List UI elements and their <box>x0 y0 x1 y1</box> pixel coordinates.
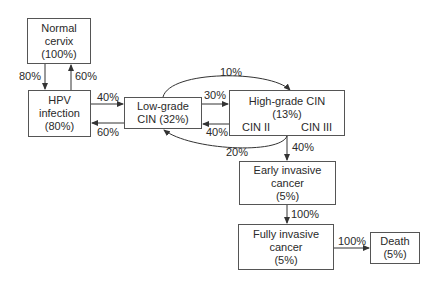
node-text: Death <box>380 235 409 248</box>
node-normal-cervix: Normal cervix (100%) <box>27 18 91 64</box>
edge-label-hpv-to-low: 40% <box>97 91 119 103</box>
edge-label-low-to-high: 30% <box>204 89 226 101</box>
node-text: CIN (32%) <box>137 113 188 126</box>
node-text: cancer <box>271 177 304 190</box>
node-text: (5%) <box>276 190 299 203</box>
label-cin3: CIN III <box>301 121 332 133</box>
node-text: HPV <box>48 94 71 107</box>
edge-label-normal-to-hpv: 80% <box>19 70 41 82</box>
node-text: (5%) <box>383 248 406 261</box>
edge-label-low-to-hpv: 60% <box>97 126 119 138</box>
node-text: (80%) <box>45 120 74 133</box>
node-text: infection <box>39 107 80 120</box>
node-text: (5%) <box>274 254 297 267</box>
node-early-invasive-cancer: Early invasive cancer (5%) <box>239 161 336 205</box>
node-death: Death (5%) <box>370 232 420 264</box>
node-text: High-grade CIN <box>249 95 325 108</box>
node-text: Low-grade <box>137 100 189 113</box>
edge-label-high-to-low: 40% <box>206 126 228 138</box>
node-text: cervix <box>45 35 74 48</box>
node-fully-invasive-cancer: Fully invasive cancer (5%) <box>238 224 334 270</box>
node-text: cancer <box>269 241 302 254</box>
edge-label-arc-low-to-high: 10% <box>220 66 242 78</box>
edge-label-early-to-fully: 100% <box>291 208 319 220</box>
edge-label-hpv-to-normal: 60% <box>75 70 97 82</box>
node-hpv-infection: HPV infection (80%) <box>28 90 91 137</box>
edge-label-fully-to-death: 100% <box>338 235 366 247</box>
label-cin2: CIN II <box>242 121 270 133</box>
edge-label-high-to-early: 40% <box>292 141 314 153</box>
node-text: Fully invasive <box>253 228 319 241</box>
node-text: Normal <box>41 22 76 35</box>
edge-label-arc-high-to-low: 20% <box>226 146 248 158</box>
node-text: Early invasive <box>254 164 322 177</box>
node-text: (100%) <box>41 48 76 61</box>
node-low-grade-cin: Low-grade CIN (32%) <box>124 97 202 129</box>
node-text: (13%) <box>272 108 301 121</box>
